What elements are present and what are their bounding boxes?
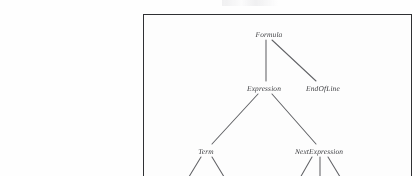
parse-tree-edges: [144, 15, 413, 176]
edge-expression-nextexpression: [272, 94, 316, 144]
tree-node-endofline: EndOfLine: [306, 84, 340, 93]
edge-term-child-1: [184, 157, 201, 176]
tree-node-expression: Expression: [247, 84, 281, 93]
edge-nextexpression-child-1: [296, 157, 312, 176]
tree-node-nextexpression: NextExpression: [295, 147, 343, 156]
edge-nextexpression-child-3: [328, 157, 345, 176]
clipped-caption-remnant: [222, 0, 278, 6]
edge-expression-term: [212, 94, 258, 144]
edge-term-child-2: [212, 157, 229, 176]
figure-screenshot: Formula Expression EndOfLine Term NextEx…: [0, 0, 420, 176]
edge-formula-endofline: [272, 40, 316, 81]
tree-node-term: Term: [198, 147, 214, 156]
tree-node-formula: Formula: [256, 30, 283, 39]
figure-frame: Formula Expression EndOfLine Term NextEx…: [143, 14, 412, 176]
